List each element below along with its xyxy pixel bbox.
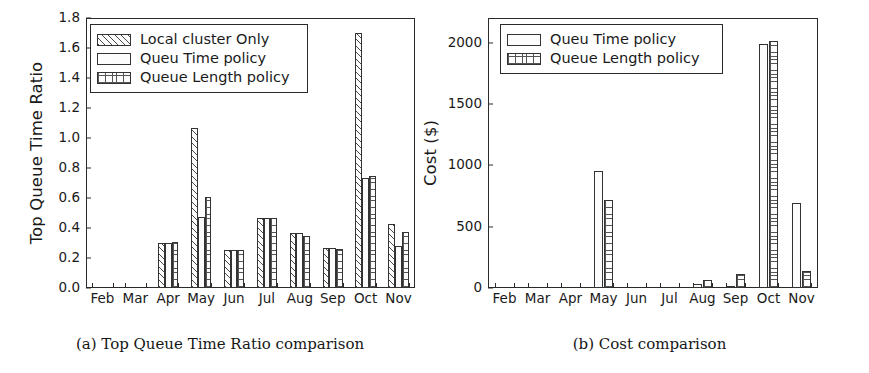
y-axis-tick-mark	[488, 42, 493, 43]
x-axis-tick-mark	[646, 283, 647, 288]
bar-nov-series-1	[792, 203, 802, 288]
x-axis-tick-label: Jun	[626, 292, 647, 306]
x-axis-tick-mark	[244, 283, 245, 288]
subfigure-a: 0.00.20.40.60.81.01.21.41.61.8Top Queue …	[0, 0, 440, 373]
legend-item-label: Queue Length policy	[140, 70, 290, 85]
x-axis-tick-mark	[376, 283, 377, 288]
x-axis-tick-label: Oct	[354, 292, 377, 306]
y-axis-tick-label: 1.8	[59, 11, 86, 25]
x-axis-tick-label: Apr	[559, 292, 582, 306]
y-axis-tick-label: 0	[473, 281, 488, 295]
x-axis-tick-mark	[547, 283, 548, 288]
x-axis-tick-mark	[113, 283, 114, 288]
bar-sep-series-2	[329, 248, 336, 288]
y-axis-tick-mark	[86, 18, 91, 19]
x-axis-tick-mark	[778, 283, 779, 288]
legend-item-1: Queu Time policy	[507, 30, 715, 49]
bar-jul-series-1	[257, 218, 264, 289]
caption-subfigure-b: (b) Cost comparison	[430, 335, 869, 353]
bar-sep-series-2	[736, 274, 746, 288]
chart-b-plot-area: 0500100015002000Cost ($)FebMarAprMayJunJ…	[488, 18, 818, 288]
y-axis-tick-label: 1.0	[59, 131, 86, 145]
bar-jun-series-3	[237, 250, 244, 288]
y-axis-tick-mark	[488, 165, 493, 166]
y-axis-tick-mark	[488, 288, 493, 289]
x-axis-tick-mark	[495, 283, 496, 288]
x-axis-tick-label: Oct	[757, 292, 780, 306]
y-axis-tick-label: 1000	[448, 159, 488, 173]
x-axis-tick-mark	[178, 283, 179, 288]
y-axis-tick-mark	[488, 226, 493, 227]
bar-sep-series-1	[323, 248, 330, 288]
x-axis-tick-label: May	[590, 292, 618, 306]
y-axis-tick-label: 1.2	[59, 101, 86, 115]
y-axis-tick-mark	[488, 103, 493, 104]
x-axis-tick-label: Aug	[287, 292, 313, 306]
bar-may-series-3	[205, 197, 212, 289]
legend-item-2: Queue Length policy	[507, 49, 715, 68]
bar-oct-series-3	[369, 176, 376, 288]
y-axis-tick-label: 1.4	[59, 71, 86, 85]
bar-sep-series-3	[336, 249, 343, 288]
legend-item-label: Queu Time policy	[550, 32, 676, 47]
bar-sep-series-1	[726, 286, 736, 288]
y-axis-tick-label: 2000	[448, 36, 488, 50]
x-axis-tick-mark	[146, 283, 147, 288]
x-axis-tick-mark	[409, 283, 410, 288]
x-axis-tick-label: Sep	[723, 292, 748, 306]
x-axis-tick-label: Feb	[493, 292, 517, 306]
caption-subfigure-a: (a) Top Queue Time Ratio comparison	[0, 335, 440, 353]
x-axis-tick-label: Aug	[689, 292, 715, 306]
chart-legend: Local cluster OnlyQueu Time policyQueue …	[90, 24, 308, 93]
y-axis-tick-mark	[86, 288, 91, 289]
y-axis-tick-mark	[86, 258, 91, 259]
y-axis-label: Cost ($)	[421, 120, 440, 186]
y-axis-tick-label: 0.8	[59, 161, 86, 175]
y-axis-tick-mark	[86, 108, 91, 109]
legend-swatch-grid-icon	[507, 53, 541, 65]
x-axis-tick-mark	[343, 283, 344, 288]
x-axis-tick-label: Mar	[525, 292, 550, 306]
x-axis-tick-mark	[580, 283, 581, 288]
bar-aug-series-1	[693, 284, 703, 288]
x-axis-tick-mark	[811, 283, 812, 288]
chart-legend: Queu Time policyQueue Length policy	[500, 24, 723, 74]
x-axis-tick-label: Sep	[320, 292, 345, 306]
legend-item-label: Queue Length policy	[550, 51, 700, 66]
bar-aug-series-2	[296, 233, 303, 288]
y-axis-tick-label: 0.4	[59, 221, 86, 235]
bar-oct-series-2	[362, 178, 369, 288]
bar-may-series-2	[198, 217, 205, 288]
x-axis-tick-label: Feb	[90, 292, 114, 306]
y-axis-tick-label: 0.2	[59, 251, 86, 265]
bar-jul-series-2	[264, 218, 271, 289]
bar-nov-series-2	[395, 246, 402, 288]
x-axis-tick-mark	[125, 283, 126, 288]
bar-apr-series-1	[158, 243, 165, 288]
x-axis-tick-mark	[679, 283, 680, 288]
x-axis-tick-label: Jul	[661, 292, 677, 306]
x-axis-tick-label: Apr	[157, 292, 180, 306]
legend-item-3: Queue Length policy	[97, 68, 300, 87]
bar-aug-series-3	[303, 236, 310, 289]
bar-aug-series-2	[703, 280, 713, 288]
subfigure-b: 0500100015002000Cost ($)FebMarAprMayJunJ…	[430, 0, 869, 373]
x-axis-tick-mark	[745, 283, 746, 288]
legend-item-label: Local cluster Only	[140, 32, 269, 47]
x-axis-tick-mark	[660, 283, 661, 288]
bar-oct-series-1	[355, 33, 362, 288]
y-axis-tick-mark	[86, 228, 91, 229]
y-axis-tick-mark	[86, 168, 91, 169]
x-axis-tick-mark	[712, 283, 713, 288]
x-axis-tick-label: Jun	[224, 292, 245, 306]
y-axis-tick-label: 1500	[448, 97, 488, 111]
legend-swatch-dots-icon	[97, 53, 131, 65]
x-axis-tick-label: May	[187, 292, 215, 306]
bar-oct-series-2	[769, 41, 779, 288]
bar-may-series-1	[594, 171, 604, 288]
bar-nov-series-2	[802, 271, 812, 288]
bar-jun-series-1	[224, 250, 231, 288]
y-axis-label: Top Queue Time Ratio	[27, 62, 46, 245]
x-axis-tick-label: Nov	[788, 292, 814, 306]
bar-apr-series-3	[172, 242, 179, 288]
